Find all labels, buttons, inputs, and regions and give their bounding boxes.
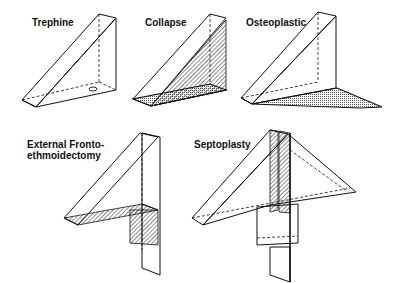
panel-label-collapse: Collapse [145, 17, 187, 28]
trephine-hole-icon [89, 87, 97, 91]
panel-label-septoplasty: Septoplasty [194, 139, 251, 150]
panel-label-external-frontoethmoidectomy: External Fronto- ethmoidectomy [27, 139, 104, 161]
panel-label-osteoplastic: Osteoplastic [246, 17, 306, 28]
panel-label-trephine: Trephine [32, 17, 74, 28]
septoplasty-prism [192, 130, 356, 282]
sinus-surgery-diagram: Trephine Collapse Osteoplastic External … [0, 0, 396, 283]
